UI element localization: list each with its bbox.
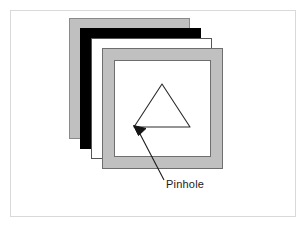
pinhole-label: Pinhole: [166, 178, 204, 191]
figure-root: Pinhole: [0, 0, 307, 228]
front-square-inner-white: [115, 61, 211, 157]
pinhole-diagram-svg: [0, 0, 307, 228]
